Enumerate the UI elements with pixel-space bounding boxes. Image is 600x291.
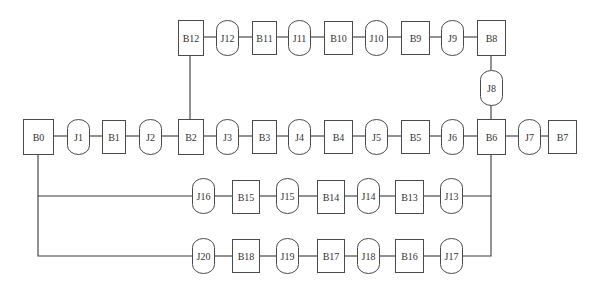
edge-b0-j16 <box>38 154 192 196</box>
edge-j13-b6 <box>462 154 491 196</box>
joint-node-j12: J12 <box>217 21 239 56</box>
joint-node-j5: J5 <box>366 120 388 155</box>
node-label: B13 <box>401 192 418 203</box>
bus-node-b17: B17 <box>318 240 345 273</box>
joint-node-j18: J18 <box>358 239 380 274</box>
node-label: J7 <box>525 132 534 143</box>
bus-node-b13: B13 <box>396 181 424 214</box>
node-label: B8 <box>486 33 498 44</box>
bus-node-b12: B12 <box>179 21 204 56</box>
node-label: B11 <box>256 33 272 44</box>
node-label: J20 <box>197 251 211 262</box>
node-label: J5 <box>372 132 381 143</box>
bus-node-b4: B4 <box>325 121 353 154</box>
joint-node-j6: J6 <box>442 120 464 155</box>
joint-node-j10: J10 <box>366 21 388 56</box>
node-label: J15 <box>281 191 295 202</box>
node-label: J4 <box>295 132 304 143</box>
node-label: B7 <box>557 132 569 143</box>
bus-node-b5: B5 <box>402 121 430 154</box>
joint-node-j2: J2 <box>140 120 162 155</box>
joint-node-j9: J9 <box>442 21 464 56</box>
node-label: J9 <box>448 33 457 44</box>
node-label: J19 <box>281 251 295 262</box>
node-label: B3 <box>259 132 271 143</box>
node-label: J12 <box>221 33 235 44</box>
node-label: B16 <box>401 251 418 262</box>
joint-node-j11: J11 <box>289 21 311 56</box>
node-label: B17 <box>323 251 340 262</box>
bus-node-b14: B14 <box>318 181 345 214</box>
joint-node-j15: J15 <box>277 179 299 214</box>
joint-node-j7: J7 <box>519 120 541 155</box>
joint-node-j19: J19 <box>277 239 299 274</box>
node-label: B14 <box>323 192 340 203</box>
bus-node-b3: B3 <box>253 121 277 154</box>
joint-node-j8: J8 <box>481 71 503 106</box>
node-label: B1 <box>108 132 120 143</box>
bus-node-b16: B16 <box>396 240 424 273</box>
bus-node-b0: B0 <box>24 120 54 155</box>
joint-node-j1: J1 <box>68 120 90 155</box>
node-label: B12 <box>183 33 200 44</box>
node-label: B4 <box>333 132 345 143</box>
joint-node-j17: J17 <box>441 239 463 274</box>
joint-node-j16: J16 <box>193 179 215 214</box>
network-diagram: B0J1B1J2B2J3B3J4B4J5B5J6B6J7B7B8J8J9B9J1… <box>0 0 600 291</box>
bus-node-b10: B10 <box>325 22 353 55</box>
node-label: B0 <box>33 132 45 143</box>
bus-node-b8: B8 <box>478 21 506 56</box>
node-label: J8 <box>487 83 496 94</box>
node-label: J14 <box>362 191 376 202</box>
node-label: B10 <box>330 33 347 44</box>
node-label: J2 <box>146 132 155 143</box>
node-label: J11 <box>293 33 307 44</box>
node-label: B15 <box>238 192 255 203</box>
joint-node-j3: J3 <box>217 120 239 155</box>
node-label: B9 <box>410 33 422 44</box>
node-label: B6 <box>486 132 498 143</box>
node-label: J1 <box>74 132 83 143</box>
bus-node-b2: B2 <box>179 120 204 155</box>
node-label: J13 <box>445 191 459 202</box>
joint-node-j14: J14 <box>358 179 380 214</box>
node-label: J17 <box>445 251 459 262</box>
joint-node-j20: J20 <box>193 239 215 274</box>
node-label: B2 <box>185 132 197 143</box>
bus-node-b6: B6 <box>478 120 506 155</box>
node-label: J16 <box>197 191 211 202</box>
node-layer: B0J1B1J2B2J3B3J4B4J5B5J6B6J7B7B8J8J9B9J1… <box>24 21 577 274</box>
bus-node-b11: B11 <box>253 22 277 55</box>
edge-j17-b6 <box>462 196 491 256</box>
node-label: J6 <box>448 132 457 143</box>
node-label: J10 <box>370 33 384 44</box>
bus-node-b15: B15 <box>233 181 260 214</box>
node-label: J3 <box>223 132 232 143</box>
joint-node-j4: J4 <box>289 120 311 155</box>
bus-node-b7: B7 <box>549 121 577 154</box>
bus-node-b1: B1 <box>103 121 126 154</box>
node-label: B5 <box>410 132 422 143</box>
bus-node-b9: B9 <box>402 22 430 55</box>
node-label: J18 <box>362 251 376 262</box>
joint-node-j13: J13 <box>441 179 463 214</box>
bus-node-b18: B18 <box>233 240 260 273</box>
node-label: B18 <box>238 251 255 262</box>
edge-b0-j20 <box>38 196 192 256</box>
